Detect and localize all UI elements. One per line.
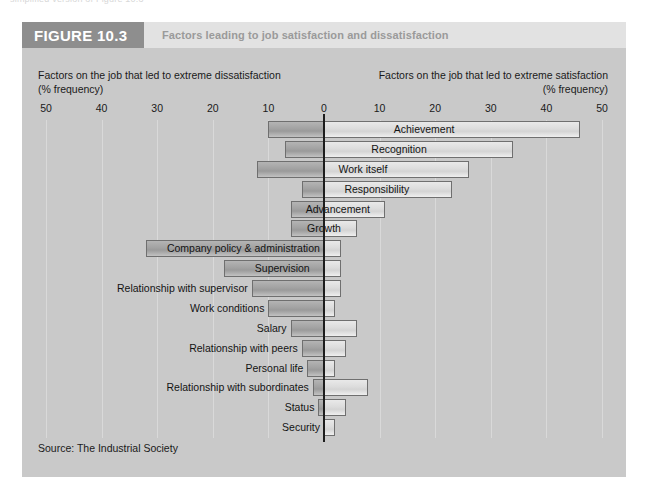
bar-dissatisfaction <box>291 320 324 337</box>
axis-tick-label: 30 <box>485 102 497 114</box>
right-axis-heading-line2: (% frequency) <box>330 82 608 96</box>
plot-area: AchievementRecognitionWork itselfRespons… <box>30 120 618 438</box>
bar-category-label: Advancement <box>291 201 386 218</box>
chart-inner: Factors on the job that led to extreme d… <box>30 58 618 468</box>
bar-satisfaction <box>324 340 346 357</box>
bar-dissatisfaction <box>268 300 324 317</box>
bar-satisfaction <box>324 399 346 416</box>
axis-tick-label: 30 <box>151 102 163 114</box>
bar-dissatisfaction <box>307 360 324 377</box>
bar-category-label: Work conditions <box>30 300 264 317</box>
bar-dissatisfaction <box>252 280 324 297</box>
axis-tick-label: 50 <box>596 102 608 114</box>
bar-category-label: Relationship with peers <box>30 340 298 357</box>
right-axis-heading: Factors on the job that led to extreme s… <box>330 68 608 96</box>
bar-category-label: Recognition <box>285 141 513 158</box>
bar-satisfaction <box>324 300 335 317</box>
figure-number-badge: FIGURE 10.3 <box>22 22 144 48</box>
figure-card: FIGURE 10.3 Factors leading to job satis… <box>22 22 626 477</box>
bar-category-label: Relationship with subordinates <box>30 379 309 396</box>
left-axis-heading-line2: (% frequency) <box>38 82 318 96</box>
bar-category-label: Status <box>30 399 314 416</box>
bar-satisfaction <box>324 419 335 436</box>
left-axis-heading: Factors on the job that led to extreme d… <box>38 68 318 96</box>
figure-header: FIGURE 10.3 Factors leading to job satis… <box>22 22 626 48</box>
axis-tick-label: 20 <box>429 102 441 114</box>
axis-tick-label: 50 <box>40 102 52 114</box>
zero-axis-line <box>323 114 325 442</box>
chart-panel: Factors on the job that led to extreme d… <box>22 48 626 477</box>
bar-category-label: Work itself <box>257 161 468 178</box>
axis-tick-label: 20 <box>207 102 219 114</box>
bar-category-label: Personal life <box>30 360 303 377</box>
axis-tick-label: 10 <box>374 102 386 114</box>
bar-satisfaction <box>324 379 368 396</box>
axis-tick-label: 40 <box>541 102 553 114</box>
figure-caption: Factors leading to job satisfaction and … <box>162 22 449 48</box>
bar-category-label: Relationship with supervisor <box>30 280 248 297</box>
bar-satisfaction <box>324 360 335 377</box>
bar-satisfaction <box>324 280 341 297</box>
right-axis-heading-line1: Factors on the job that led to extreme s… <box>330 68 608 82</box>
axis-tick-label: 10 <box>263 102 275 114</box>
bar-category-label: Company policy & administration <box>146 240 341 257</box>
bar-dissatisfaction <box>302 340 324 357</box>
axis-tick-label: 0 <box>321 102 327 114</box>
bar-category-label: Security <box>30 419 320 436</box>
source-note: Source: The Industrial Society <box>38 442 178 454</box>
bar-category-label: Achievement <box>268 121 579 138</box>
clipped-top-text: simplified version of Figure 10.3 <box>10 0 144 4</box>
left-axis-heading-line1: Factors on the job that led to extreme d… <box>38 68 318 82</box>
axis-tick-label: 40 <box>96 102 108 114</box>
bar-satisfaction <box>324 320 357 337</box>
bar-category-label: Salary <box>30 320 287 337</box>
